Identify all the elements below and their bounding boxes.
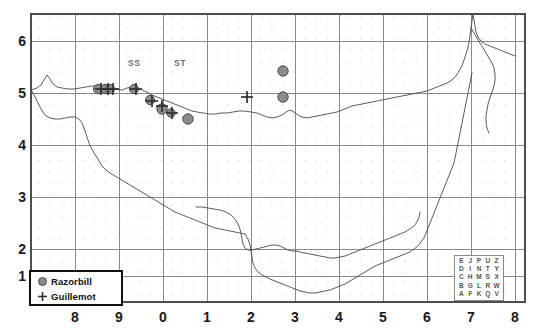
filled-circle-icon [35,276,50,287]
x-axis-tick-6: 4 [330,310,348,324]
grid-key-cell: C [457,273,466,281]
legend-label-guillemot: Guillemot [51,292,96,302]
grid-key-row: B G L R W [457,282,501,290]
grid-key-row: C H M S X [457,273,501,281]
legend-item-guillemot: Guillemot [31,289,121,304]
grid-key-cell: E [457,257,466,265]
grid-key-cell: Q [483,290,492,298]
distribution-map-figure: 6 5 4 3 2 1 8 9 0 1 2 3 4 5 6 7 8 SS ST … [0,0,537,333]
grid-key-cell: B [457,282,466,290]
y-axis-tick-6: 6 [8,34,26,48]
y-axis-tick-3: 3 [8,190,26,204]
grid-key-cell: W [492,282,501,290]
grid-square-label-ss: SS [128,59,140,68]
grid-key-cell: U [483,257,492,265]
x-axis-tick-4: 2 [242,310,260,324]
grid-key-row: A F K Q V [457,290,501,298]
plus-cross-icon [35,291,50,302]
x-axis-tick-5: 3 [286,310,304,324]
grid-key-row: E J P U Z [457,257,501,265]
y-axis-tick-4: 4 [8,138,26,152]
legend-label-razorbill: Razorbill [51,277,92,287]
x-axis-tick-1: 9 [110,310,128,324]
legend-item-razorbill: Razorbill [31,274,121,289]
grid-key-cell: M [475,273,484,281]
grid-key-cell: L [475,282,484,290]
grid-key-cell: H [466,273,475,281]
grid-square-label-st: ST [174,59,186,68]
plot-background [31,14,525,302]
grid-key-cell: N [475,265,484,273]
razorbill-point [183,114,193,124]
x-axis-tick-3: 1 [198,310,216,324]
x-axis-tick-0: 8 [66,310,84,324]
legend: Razorbill Guillemot [29,270,123,306]
grid-key-cell: V [492,290,501,298]
grid-key-cell: F [466,290,475,298]
razorbill-point [145,95,154,104]
x-axis-tick-9: 7 [462,310,480,324]
y-axis-tick-2: 2 [8,242,26,256]
x-axis-tick-7: 5 [374,310,392,324]
grid-key-cell: D [457,265,466,273]
x-axis-tick-2: 0 [154,310,172,324]
grid-key-cell: X [492,273,501,281]
grid-key-cell: P [475,257,484,265]
grid-key-cell: K [475,290,484,298]
razorbill-point [278,92,288,102]
grid-key-row: D I N T Y [457,265,501,273]
y-axis-tick-5: 5 [8,86,26,100]
x-axis-tick-8: 6 [418,310,436,324]
grid-key-cell: Y [492,265,501,273]
grid-key-cell: T [483,265,492,273]
grid-key-cell: Z [492,257,501,265]
grid-key-cell: A [457,290,466,298]
grid-key-cell: G [466,282,475,290]
grid-letter-key: E J P U Z D I N T Y C H M S X B G L R W [454,255,504,301]
grid-key-cell: R [483,282,492,290]
grid-key-cell: I [466,265,475,273]
y-axis-tick-1: 1 [8,269,26,283]
grid-key-cell: J [466,257,475,265]
grid-key-cell: S [483,273,492,281]
razorbill-point [278,66,288,76]
x-axis-tick-10: 8 [506,310,524,324]
